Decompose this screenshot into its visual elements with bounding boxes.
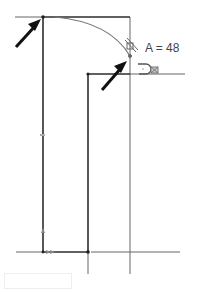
sketch-arc[interactable] (55, 17, 130, 56)
coincident-constraint-icon[interactable] (138, 64, 151, 74)
arrow-annotation-icon (16, 19, 41, 47)
dimension-label[interactable]: A = 48 (145, 41, 197, 55)
midpoint-marker (40, 134, 45, 136)
sketch-points[interactable] (41, 15, 90, 254)
sketch-profile[interactable] (43, 17, 130, 252)
reference-lines (15, 17, 185, 274)
fix-constraint-icon[interactable] (151, 67, 158, 73)
value-input-box[interactable] (4, 273, 72, 289)
tangent-constraint-icon[interactable] (125, 38, 138, 58)
arrow-annotation-icon (102, 61, 127, 90)
